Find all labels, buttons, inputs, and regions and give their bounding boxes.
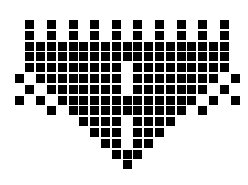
mosaic-square — [112, 52, 121, 61]
mosaic-square — [79, 96, 88, 105]
mosaic-square — [177, 63, 186, 72]
mosaic-square — [231, 96, 240, 105]
mosaic-square — [155, 117, 164, 126]
mosaic-square — [144, 63, 153, 72]
mosaic-square — [198, 31, 207, 40]
mosaic-square — [177, 52, 186, 61]
mosaic-square — [133, 139, 142, 148]
mosaic-square — [177, 96, 186, 105]
mosaic-square — [112, 128, 121, 137]
mosaic-square — [133, 128, 142, 137]
mosaic-square — [133, 31, 142, 40]
mosaic-square — [101, 42, 110, 51]
mosaic-square — [133, 20, 142, 29]
mosaic-square — [69, 96, 78, 105]
mosaic-square — [133, 96, 142, 105]
mosaic-square — [69, 52, 78, 61]
mosaic-square — [123, 160, 132, 169]
mosaic-square — [47, 106, 56, 115]
mosaic-square — [25, 31, 34, 40]
mosaic-square — [112, 150, 121, 159]
mosaic-square — [166, 96, 175, 105]
mosaic-square — [144, 74, 153, 83]
mosaic-square — [25, 20, 34, 29]
mosaic-square — [209, 96, 218, 105]
mosaic-square — [123, 150, 132, 159]
mosaic-square — [112, 106, 121, 115]
mosaic-square — [123, 96, 132, 105]
mosaic-square — [25, 63, 34, 72]
mosaic-square — [198, 63, 207, 72]
mosaic-square — [112, 42, 121, 51]
mosaic-square — [101, 74, 110, 83]
mosaic-square — [133, 85, 142, 94]
mosaic-square — [47, 20, 56, 29]
mosaic-square — [58, 52, 67, 61]
mosaic-square — [209, 74, 218, 83]
mosaic-square — [123, 106, 132, 115]
mosaic-square — [25, 52, 34, 61]
mosaic-square — [101, 128, 110, 137]
mosaic-square — [90, 85, 99, 94]
mosaic-square — [90, 74, 99, 83]
mosaic-square — [187, 63, 196, 72]
mosaic-square — [166, 74, 175, 83]
mosaic-square — [25, 85, 34, 94]
mosaic-square — [155, 20, 164, 29]
mosaic-square — [90, 106, 99, 115]
mosaic-square — [166, 106, 175, 115]
mosaic-square — [112, 20, 121, 29]
mosaic-square — [101, 106, 110, 115]
mosaic-square — [155, 63, 164, 72]
mosaic-square — [25, 42, 34, 51]
mosaic-square — [90, 20, 99, 29]
mosaic-square — [187, 85, 196, 94]
mosaic-square — [58, 42, 67, 51]
mosaic-square — [155, 128, 164, 137]
mosaic-square — [47, 85, 56, 94]
mosaic-square — [155, 52, 164, 61]
mosaic-square — [90, 117, 99, 126]
mosaic-square — [198, 106, 207, 115]
mosaic-square — [209, 52, 218, 61]
mosaic-square — [69, 42, 78, 51]
mosaic-square — [166, 117, 175, 126]
mosaic-square — [133, 63, 142, 72]
mosaic-square — [220, 31, 229, 40]
mosaic-square — [36, 96, 45, 105]
mosaic-square — [101, 96, 110, 105]
mosaic-square — [90, 42, 99, 51]
mosaic-square — [220, 20, 229, 29]
mosaic-square — [144, 52, 153, 61]
mosaic-square — [198, 74, 207, 83]
mosaic-square — [144, 117, 153, 126]
mosaic-square — [47, 74, 56, 83]
mosaic-square — [133, 74, 142, 83]
mosaic-square — [112, 117, 121, 126]
mosaic-square — [166, 52, 175, 61]
mosaic-square — [144, 139, 153, 148]
mosaic-square — [112, 139, 121, 148]
mosaic-square — [112, 74, 121, 83]
mosaic-square — [15, 74, 24, 83]
mosaic-square — [101, 85, 110, 94]
mosaic-square — [198, 52, 207, 61]
mosaic-square — [79, 52, 88, 61]
mosaic-square — [69, 106, 78, 115]
mosaic-square — [79, 74, 88, 83]
mosaic-square — [79, 42, 88, 51]
mosaic-square — [177, 106, 186, 115]
mosaic-square — [177, 20, 186, 29]
mosaic-square — [155, 31, 164, 40]
mosaic-square — [144, 128, 153, 137]
mosaic-square — [79, 106, 88, 115]
mosaic-square — [177, 42, 186, 51]
mosaic-square — [69, 20, 78, 29]
mosaic-square — [187, 96, 196, 105]
mosaic-square — [198, 42, 207, 51]
mosaic-square — [47, 42, 56, 51]
mosaic-square — [155, 96, 164, 105]
mosaic-square — [112, 63, 121, 72]
mosaic-square — [133, 150, 142, 159]
mosaic-square — [58, 74, 67, 83]
